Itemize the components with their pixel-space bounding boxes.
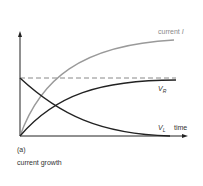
vr-subscript: R: [163, 88, 167, 94]
vl-curve: [20, 78, 170, 136]
time-axis-label: time: [174, 124, 187, 131]
vr-label: VR: [158, 85, 166, 94]
y-axis-arrow-icon: [18, 31, 22, 37]
figure-caption: current growth: [17, 159, 62, 166]
panel-label: (a): [17, 146, 26, 153]
current-label-text: current: [158, 28, 180, 35]
vl-label: VL: [158, 124, 165, 133]
x-axis-arrow-icon: [182, 134, 188, 138]
vr-curve: [20, 80, 176, 136]
current-symbol: I: [182, 28, 184, 35]
current-label: current I: [158, 28, 184, 35]
vl-subscript: L: [163, 127, 166, 133]
